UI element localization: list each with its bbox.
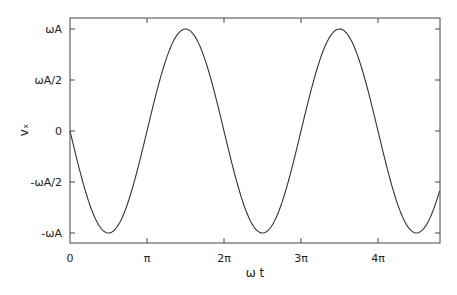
y-tick-label: ωA xyxy=(45,23,62,36)
x-tick-label: 3π xyxy=(294,252,308,265)
y-axis-label: vₓ xyxy=(17,124,31,136)
x-tick-label: 2π xyxy=(217,252,231,265)
x-tick-label: π xyxy=(144,252,151,265)
y-tick-label: -ωA xyxy=(41,227,62,240)
x-tick-label: 0 xyxy=(67,252,74,265)
y-tick-label: ωA/2 xyxy=(35,74,62,87)
x-axis-label: ω t xyxy=(246,266,265,280)
y-tick-label: -ωA/2 xyxy=(31,176,62,189)
chart: 0π2π3π4πωAωA/20-ωA/2-ωA ω t vₓ xyxy=(0,0,457,295)
x-tick-label: 4π xyxy=(371,252,385,265)
y-tick-label: 0 xyxy=(55,125,62,138)
velocity-curve xyxy=(70,29,440,233)
